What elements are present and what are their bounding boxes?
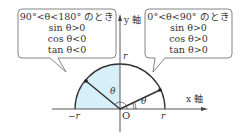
bubble-right-condition: 0°<θ<90° のとき (145, 11, 232, 22)
theta-obtuse-label: θ (110, 86, 115, 97)
theta-acute-label: θ (141, 96, 146, 107)
bubble-right: 0°<θ<90° のとき sin θ>0 cos θ>0 tan θ>0 (145, 11, 232, 55)
angle-arc-acute-2 (134, 102, 136, 109)
origin-label: O (122, 110, 130, 121)
bubble-left-sin: sin θ>0 (18, 22, 116, 33)
y-axis-arrow-icon (118, 14, 122, 21)
top-r-label: r (123, 51, 127, 62)
bubble-left-condition: 90°<θ<180° のとき (18, 11, 116, 22)
x-axis-label: x 軸 (186, 94, 203, 105)
pos-r-label: r (161, 111, 165, 122)
bubble-right-cos: cos θ>0 (145, 33, 232, 44)
neg-r-label: −r (68, 111, 80, 122)
x-axis-arrow-icon (201, 107, 208, 111)
y-axis-label: y 軸 (124, 15, 141, 26)
bubble-right-sin: sin θ>0 (145, 22, 232, 33)
bubble-left-cos: cos θ<0 (18, 33, 116, 44)
angle-arc-acute-1 (133, 103, 134, 109)
bubble-left: 90°<θ<180° のとき sin θ>0 cos θ<0 tan θ<0 (18, 11, 116, 55)
bubble-left-tan: tan θ<0 (18, 44, 116, 55)
point-obtuse (84, 79, 88, 83)
bubble-right-tan: tan θ>0 (145, 44, 232, 55)
radius-acute (120, 90, 160, 109)
point-acute (158, 88, 162, 92)
